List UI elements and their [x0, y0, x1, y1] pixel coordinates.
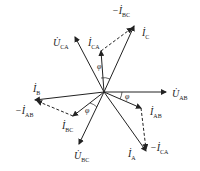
label-i-ab: İAB	[150, 107, 162, 119]
label-neg-i-ab: −İAB	[15, 106, 33, 118]
label-u-ab: U̇AB	[172, 89, 188, 101]
label-i-c: İC	[142, 28, 149, 40]
label-neg-i-bc: −İBC	[112, 6, 130, 18]
label-phi-left: φ	[85, 107, 89, 115]
label-u-ca: U̇CA	[53, 38, 69, 50]
label-u-bc: U̇BC	[74, 151, 89, 163]
phasor-i-b	[35, 92, 104, 100]
phasor-neg-i-ab	[37, 101, 73, 116]
label-i-a: İA	[128, 149, 136, 161]
phasor-u-bc	[79, 92, 104, 144]
label-neg-i-ca: −İCA	[150, 143, 168, 155]
label-i-ca: İCA	[88, 38, 100, 50]
label-phi-right: φ	[125, 93, 129, 101]
label-phi-top: φ	[97, 63, 101, 71]
phasor-lines	[0, 0, 200, 171]
phasor-i-c	[104, 26, 134, 92]
phasor-i-ca	[101, 51, 104, 92]
label-i-bc: İBC	[62, 121, 73, 133]
label-i-b: İB	[33, 84, 40, 96]
phasor-diagram: −İBC İC U̇CA İCA φ İB −İAB φ U̇AB İAB φ …	[0, 0, 200, 171]
phasor-neg-i-ca	[141, 108, 146, 149]
